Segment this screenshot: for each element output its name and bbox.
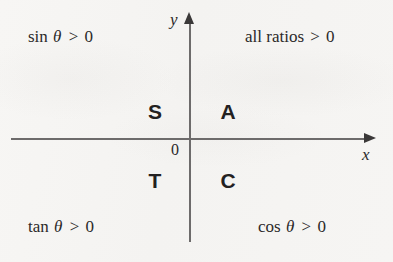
quadrant-3-value: 0: [85, 217, 94, 236]
quadrant-1-relation: >: [308, 27, 322, 46]
quadrant-3-function: tan: [28, 217, 49, 236]
quadrant-2-variable: θ: [52, 27, 62, 46]
quadrant-4-function: cos: [258, 217, 281, 236]
cast-letter-cosine-quadrant: C: [214, 170, 242, 191]
cast-letter-sine-quadrant: S: [141, 101, 169, 122]
plot-area: y x 0 S A T C sin θ > 0 all ratios > 0 t…: [0, 0, 393, 262]
quadrant-3-relation: >: [68, 217, 82, 236]
quadrant-2-note: sin θ > 0: [28, 28, 93, 45]
quadrant-2-function: sin: [28, 27, 48, 46]
arrow-right-icon: [364, 133, 376, 143]
quadrant-4-note: cos θ > 0: [258, 218, 326, 235]
quadrant-2-value: 0: [85, 27, 94, 46]
quadrant-3-variable: θ: [53, 217, 63, 236]
quadrant-3-note: tan θ > 0: [28, 218, 94, 235]
quadrant-4-variable: θ: [285, 217, 295, 236]
quadrant-4-value: 0: [317, 217, 326, 236]
quadrant-1-value: 0: [326, 27, 335, 46]
quadrant-1-note: all ratios > 0: [245, 28, 335, 45]
quadrant-2-relation: >: [67, 27, 81, 46]
quadrant-4-relation: >: [300, 217, 314, 236]
arrow-up-icon: [184, 12, 194, 24]
cast-letter-all-quadrant: A: [214, 101, 242, 122]
y-axis-line: [189, 20, 191, 242]
cast-diagram-figure: y x 0 S A T C sin θ > 0 all ratios > 0 t…: [0, 0, 393, 262]
origin-label: 0: [171, 142, 179, 158]
cast-letter-tangent-quadrant: T: [141, 170, 169, 191]
y-axis-label: y: [170, 11, 178, 28]
quadrant-1-function: all ratios: [245, 27, 304, 46]
x-axis-label: x: [362, 146, 370, 163]
